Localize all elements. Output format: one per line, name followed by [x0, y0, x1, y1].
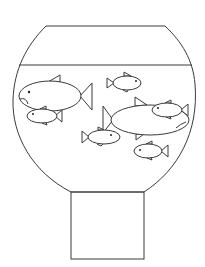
- small-fish-lower-middle: [82, 127, 120, 146]
- fish-eye: [110, 134, 112, 136]
- fish-eye: [139, 149, 141, 151]
- fish-body: [27, 109, 57, 123]
- fishbowl-diagram: [0, 0, 205, 267]
- fish-body: [134, 144, 162, 158]
- fish-body: [152, 103, 182, 117]
- fish-body: [113, 76, 141, 90]
- fish-body: [19, 81, 81, 111]
- fish-eye: [135, 80, 137, 82]
- fish-eye: [157, 107, 159, 109]
- belly-fin: [97, 144, 103, 146]
- fish-eye: [32, 113, 34, 115]
- small-fish-top: [107, 72, 141, 92]
- dorsal-fin: [124, 72, 131, 76]
- small-fish-bottom-right: [134, 141, 168, 160]
- large-fish-left: [19, 75, 92, 111]
- bowl-stand: [71, 192, 144, 259]
- tail-fin: [80, 83, 92, 110]
- fish-eye: [28, 91, 30, 93]
- fish-body: [88, 130, 120, 144]
